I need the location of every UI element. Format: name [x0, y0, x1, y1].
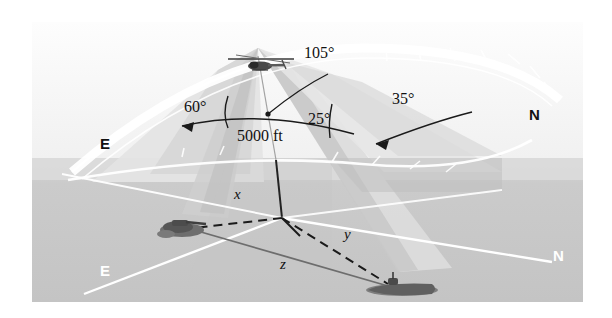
diagram-svg — [32, 22, 583, 302]
cardinal-e-lower-label: E — [100, 262, 110, 279]
var-y-label: y — [344, 226, 351, 243]
angle-105-label: 105° — [304, 44, 334, 62]
var-z-label: z — [280, 256, 286, 273]
altitude-label: 5000 ft — [237, 127, 283, 145]
angle-60-label: 60° — [184, 98, 206, 116]
var-x-label: x — [234, 186, 241, 203]
angle-35-label: 35° — [392, 90, 414, 108]
diagram-canvas: 60° 105° 25° 35° 5000 ft E N E N x y z — [32, 22, 583, 302]
cardinal-n-upper-label: N — [529, 106, 540, 123]
cardinal-n-lower-label: N — [553, 247, 564, 264]
angle-25-label: 25° — [308, 110, 330, 128]
figure-stage: 60° 105° 25° 35° 5000 ft E N E N x y z — [0, 0, 612, 318]
cardinal-e-upper-label: E — [100, 135, 110, 152]
